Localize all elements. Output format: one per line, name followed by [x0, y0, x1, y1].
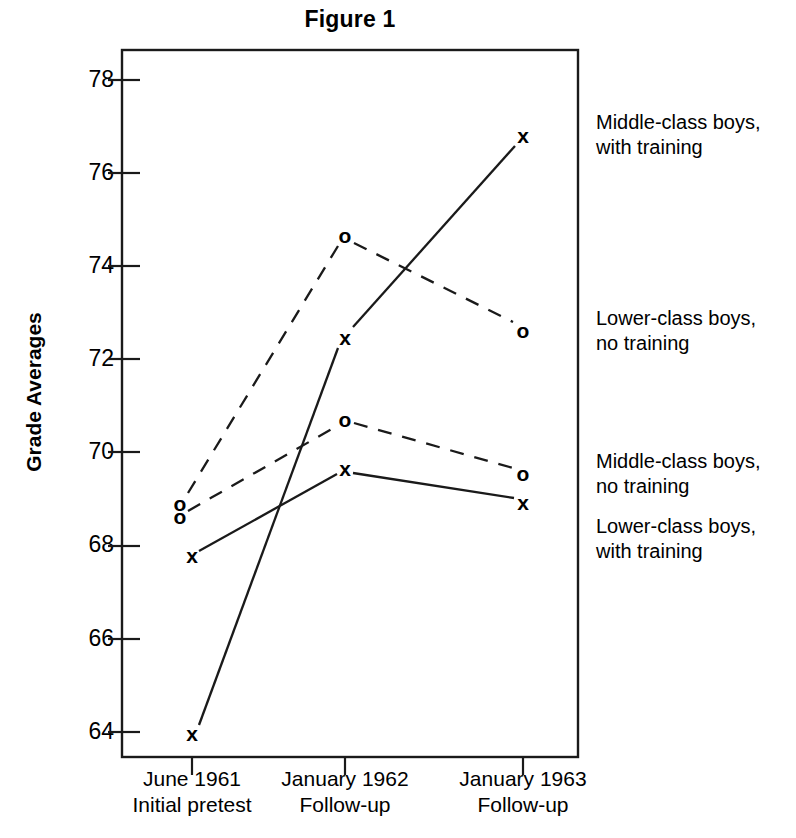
data-point-marker-x: x [339, 457, 351, 480]
plot-frame [122, 50, 578, 757]
series-middle-class-no-training: o o o [174, 408, 530, 528]
data-point-marker-x: x [517, 491, 529, 514]
data-point-marker-x: x [186, 722, 198, 745]
data-point-marker-o: o [517, 319, 530, 342]
data-point-marker-x: x [517, 124, 529, 147]
data-point-marker-o: o [339, 408, 352, 431]
figure-container: Figure 1 Grade Averages 78 76 74 72 70 6… [0, 0, 796, 838]
data-point-marker-x: x [339, 326, 351, 349]
x-axis-ticks [192, 757, 523, 775]
data-point-marker-o: o [339, 224, 352, 247]
data-point-marker-o: o [517, 462, 530, 485]
series-middle-class-with-training: x x x [186, 124, 529, 745]
data-point-marker-o: o [174, 505, 187, 528]
data-point-marker-x: x [186, 544, 198, 567]
plot-area: x x x o o o o o o x x x [0, 0, 796, 838]
series-lower-class-no-training: o o o [174, 224, 530, 515]
y-axis-ticks [108, 80, 140, 732]
series-lower-class-with-training: x x x [186, 457, 529, 567]
